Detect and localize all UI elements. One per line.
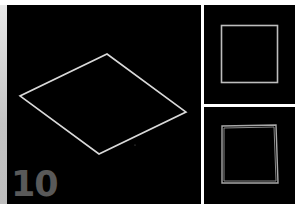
bottom-right-panel <box>204 107 295 204</box>
top-right-panel <box>204 5 295 104</box>
main-panel: 10 <box>7 5 201 204</box>
square-outline <box>204 5 295 104</box>
left-edge-strip <box>0 5 7 204</box>
rotated-square-outline <box>204 107 295 204</box>
step-number-label: 10 <box>11 167 58 202</box>
